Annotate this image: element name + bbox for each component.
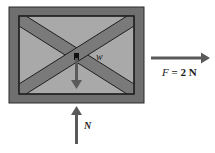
applied-force-arrow-icon [151,53,210,64]
normal-force-arrow-icon [71,106,82,144]
applied-force-label: F = 2 N [161,66,197,78]
free-body-diagram: w F = 2 N N [0,0,215,153]
normal-force-label: N [83,120,92,131]
weight-label: w [96,51,103,62]
